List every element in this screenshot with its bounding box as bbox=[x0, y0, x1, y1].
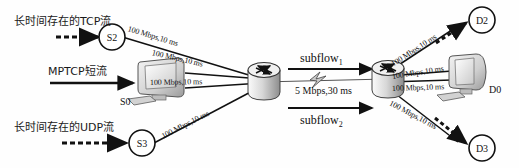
node-d2-label: D2 bbox=[476, 15, 488, 26]
node-s2-label: S2 bbox=[107, 32, 118, 43]
flow-label-udp: 长时间存在的UDP流 bbox=[14, 122, 114, 134]
bottleneck-capacity-label: 5 Mbps,30 ms bbox=[295, 85, 352, 96]
node-s0-label: S0 bbox=[120, 96, 131, 107]
router-r1[interactable] bbox=[248, 63, 280, 101]
network-topology-figure: S2 S3 D2 D3 长时间存在的TCP流 MPTCP短流 长时间存在的UDP… bbox=[0, 0, 519, 168]
link-label-r2-d0-lower: 100 Mbps,10 ms bbox=[392, 82, 444, 93]
subflow1-index: 1 bbox=[339, 58, 343, 67]
link-label-s0-r1-lower: 100 Mbps,10 ms bbox=[150, 77, 202, 87]
subflow2-label: subflow2 bbox=[300, 113, 343, 129]
node-d3-label: D3 bbox=[476, 143, 488, 154]
bottleneck-link bbox=[262, 79, 386, 82]
flow-label-mptcp: MPTCP短流 bbox=[48, 66, 107, 78]
node-d0-label: D0 bbox=[489, 84, 501, 95]
node-d0-computer[interactable] bbox=[437, 54, 486, 101]
subflow2-name: subflow bbox=[300, 113, 339, 127]
node-s3-label: S3 bbox=[137, 138, 148, 149]
subflow1-label: subflow1 bbox=[300, 51, 343, 67]
flow-label-tcp: 长时间存在的TCP流 bbox=[14, 16, 111, 28]
subflow2-index: 2 bbox=[339, 120, 343, 129]
subflow1-name: subflow bbox=[300, 51, 339, 65]
